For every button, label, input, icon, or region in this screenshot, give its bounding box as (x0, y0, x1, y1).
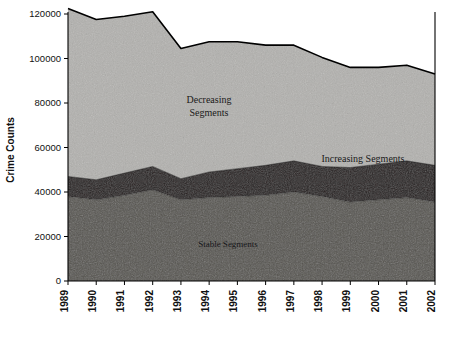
stable-label: Stable Segments (198, 239, 258, 249)
x-tick-label: 2000 (370, 290, 381, 313)
y-tick-label: 80000 (35, 97, 61, 108)
x-tick-label: 1989 (59, 290, 70, 313)
x-tick-label: 1990 (87, 290, 98, 313)
y-tick-label: 40000 (35, 186, 61, 197)
x-tick-label: 1998 (313, 290, 324, 313)
area-stable-segments (68, 190, 435, 281)
x-tick-label: 1993 (172, 290, 183, 313)
y-tick-label: 100000 (29, 53, 61, 64)
y-tick-label: 60000 (35, 142, 61, 153)
decreasing-label-line1: Decreasing (187, 94, 232, 105)
x-tick-label: 2001 (398, 290, 409, 313)
x-tick-label: 1992 (144, 290, 155, 313)
decreasing-label-line2: Segments (190, 107, 229, 118)
stacked-area-chart: 020000400006000080000100000120000 198919… (0, 0, 450, 339)
y-tick-label: 0 (56, 275, 61, 286)
x-tick-label: 1997 (285, 290, 296, 313)
x-tick-label: 1994 (200, 290, 211, 313)
y-tick-label: 20000 (35, 231, 61, 242)
increasing-label: Increasing Segments (321, 153, 404, 164)
x-tick-label: 1996 (257, 290, 268, 313)
x-tick-label: 1995 (228, 290, 239, 313)
chart-canvas: 020000400006000080000100000120000 198919… (0, 0, 450, 339)
y-tick-label: 120000 (29, 8, 61, 19)
x-tick-label: 1999 (341, 290, 352, 313)
y-axis-title: Crime Counts (5, 117, 16, 183)
x-tick-label: 1991 (115, 290, 126, 313)
x-tick-label: 2002 (426, 290, 437, 313)
